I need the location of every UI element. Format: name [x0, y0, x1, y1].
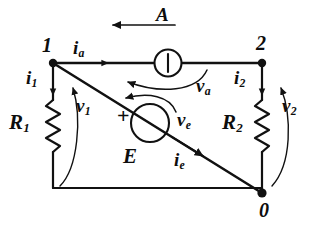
circuit-diagram: 1 2 0 A ia i1 i2 ie va v1 v2 ve R1 R2 + … — [0, 0, 327, 235]
current-label-ia: ia — [73, 38, 84, 59]
voltage-label-va-sub: a — [204, 85, 210, 98]
voltage-label-v2: v2 — [282, 96, 297, 117]
current-label-ie-sub: e — [179, 159, 184, 172]
resistor-label-R2-base: R — [222, 110, 236, 134]
resistor-label-R1: R1 — [9, 112, 30, 134]
node-label-2: 2 — [256, 33, 266, 53]
resistor-label-R2-sub: 2 — [236, 120, 243, 135]
current-label-ie: ie — [174, 150, 185, 171]
node-0-dot — [257, 188, 266, 197]
node-2-dot — [258, 59, 266, 67]
current-label-i1: i1 — [26, 68, 37, 89]
voltage-label-ve-sub: e — [185, 119, 190, 132]
voltage-label-v1: v1 — [76, 96, 91, 117]
node-1-dot — [49, 59, 57, 67]
source-label-A: A — [156, 5, 169, 24]
voltage-label-v2-sub: 2 — [290, 105, 296, 118]
resistor-label-R2: R2 — [222, 112, 243, 134]
current-label-i2-sub: 2 — [239, 77, 245, 90]
resistor-label-R1-sub: 1 — [23, 120, 30, 135]
current-label-ia-sub: a — [78, 47, 84, 60]
polarity-plus-marker: + — [117, 105, 130, 127]
voltage-arrow-v1 — [60, 88, 78, 186]
node-label-1: 1 — [42, 35, 52, 55]
current-source-symbol — [155, 50, 182, 77]
current-label-i2: i2 — [234, 68, 245, 89]
voltage-label-v1-sub: 1 — [84, 105, 90, 118]
voltage-label-ve: ve — [177, 110, 191, 131]
node-label-0: 0 — [259, 200, 269, 220]
resistor-label-R1-base: R — [9, 110, 23, 134]
source-label-E: E — [123, 146, 137, 167]
voltage-label-va: va — [196, 76, 211, 97]
current-label-i1-sub: 1 — [31, 77, 37, 90]
